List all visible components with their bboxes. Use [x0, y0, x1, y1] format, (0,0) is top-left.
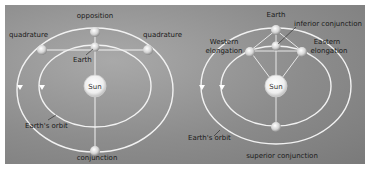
planet-superior-conjunction — [271, 122, 281, 132]
label-earths-orbit-right: Earth's orbit — [188, 134, 231, 142]
orbit-arrow-outer — [17, 85, 23, 90]
superior-planet-diagram: opposition quadrature quadrature Earth S… — [9, 12, 182, 162]
label-earth-right: Earth — [267, 11, 286, 19]
orbit-arrow-outer-right — [199, 85, 205, 90]
planet-opposition — [90, 27, 100, 37]
label-quadrature-right: quadrature — [143, 31, 182, 39]
orbit-arrow-inner-right — [219, 85, 225, 90]
label-sun: Sun — [88, 83, 101, 91]
orbit-pointer — [48, 115, 56, 120]
earth-right — [271, 25, 281, 35]
label-earth: Earth — [73, 56, 92, 64]
label-inferior-conjunction: inferior conjunction — [294, 20, 362, 28]
label-western-elongation-1: Western — [210, 38, 239, 46]
planet-western-elongation — [245, 47, 255, 57]
label-quadrature-left: quadrature — [9, 31, 48, 39]
label-opposition: opposition — [77, 12, 113, 20]
planetary-configurations-diagram: opposition quadrature quadrature Earth S… — [0, 0, 373, 171]
planet-quadrature-right — [143, 45, 153, 55]
label-eastern-elongation-1: Eastern — [314, 38, 341, 46]
label-earths-orbit: Earth's orbit — [25, 122, 68, 130]
orbit-arrow-inner — [39, 85, 45, 90]
label-conjunction: conjunction — [77, 154, 118, 162]
planet-eastern-elongation — [297, 47, 307, 57]
label-western-elongation-2: elongation — [205, 47, 242, 55]
label-eastern-elongation-2: elongation — [310, 47, 347, 55]
label-superior-conjunction: superior conjunction — [246, 152, 318, 160]
planet-quadrature-left — [37, 45, 47, 55]
label-sun-right: Sun — [269, 83, 282, 91]
inferior-planet-diagram: Earth inferior conjunction Western elong… — [188, 11, 362, 160]
